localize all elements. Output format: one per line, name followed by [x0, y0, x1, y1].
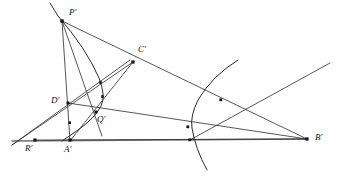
label-q-prime: Q′: [97, 115, 105, 124]
geometry-figure: P′ C′ D′ Q′ R′ A′ B′: [0, 0, 337, 182]
line-r-through-d-upward: [12, 60, 130, 145]
label-r-prime: R′: [25, 144, 32, 153]
point-d-prime: [67, 102, 70, 105]
line-group: [12, 21, 330, 145]
intersection-node: [188, 138, 191, 141]
label-b-prime: B′: [315, 133, 322, 142]
line-p-through-q: [62, 21, 102, 136]
intersection-node: [68, 121, 71, 124]
intersection-node: [99, 81, 102, 84]
intersection-node: [101, 95, 104, 98]
point-r-prime: [33, 138, 36, 141]
point-c-prime: [131, 60, 134, 63]
point-b-prime: [305, 137, 308, 140]
label-c-prime: C′: [138, 45, 146, 54]
figure-canvas: [0, 0, 337, 182]
conic-right-branch: [192, 60, 238, 170]
intersection-node: [219, 98, 222, 101]
point-a-prime: [68, 138, 71, 141]
line-rising-to-right-edge: [190, 63, 330, 140]
intersection-node: [186, 125, 189, 128]
vertex-point-group: [33, 19, 308, 141]
label-d-prime: D′: [51, 96, 59, 105]
conic-group: [50, 3, 238, 170]
label-a-prime: A′: [64, 145, 71, 154]
point-p-prime: [60, 19, 63, 22]
conic-left-branch: [50, 3, 103, 141]
label-p-prime: P′: [69, 8, 76, 17]
